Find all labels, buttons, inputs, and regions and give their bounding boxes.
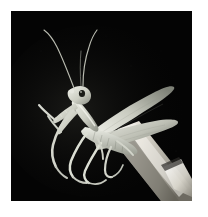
mantis-photograph <box>11 11 192 201</box>
screenshot-root: A pale green praying mantis perched on a… <box>0 0 208 217</box>
mantis-eye <box>79 90 85 97</box>
photo-frame <box>11 11 192 201</box>
mantis-eye-highlight <box>80 91 82 93</box>
